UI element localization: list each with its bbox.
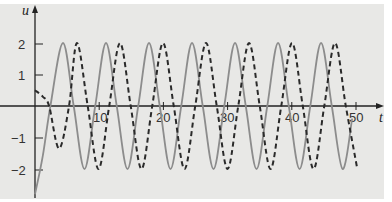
y-tick-label-1: 1 [18,68,25,83]
y-axis-label: u [22,3,29,18]
x-tick-label-10: 10 [93,110,107,125]
y-tick-label-2: 2 [18,37,25,52]
y-ticks [35,44,43,170]
x-tick-label-20: 20 [156,110,170,125]
y-axis-arrow-icon [32,5,38,13]
x-tick-label-40: 40 [285,110,299,125]
x-axis-label: t [379,110,384,125]
y-tick-label-minus-1: −1 [11,131,26,146]
x-axis-arrow-icon [376,103,384,109]
y-tick-label-minus-2: −2 [11,163,26,178]
chart-plot: u t 10 20 30 40 50 2 1 −1 −2 [0,0,392,202]
